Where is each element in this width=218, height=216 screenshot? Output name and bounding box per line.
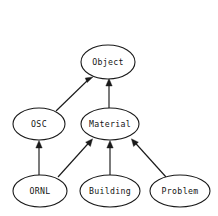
node-material[interactable]: Material [81, 108, 139, 140]
node-building-label: Building [89, 186, 131, 196]
node-ornl[interactable]: ORNL [13, 175, 67, 207]
node-osc[interactable]: OSC [13, 108, 65, 140]
node-object-label: Object [92, 57, 124, 67]
node-osc-label: OSC [31, 119, 47, 129]
node-problem-label: Problem [162, 186, 199, 196]
node-ornl-label: ORNL [29, 186, 50, 196]
node-object[interactable]: Object [81, 45, 135, 79]
node-building[interactable]: Building [80, 175, 140, 207]
ontology-graph-canvas: Object OSC Material ORNL Building Proble… [0, 0, 218, 216]
node-problem[interactable]: Problem [150, 175, 210, 207]
node-material-label: Material [89, 119, 131, 129]
